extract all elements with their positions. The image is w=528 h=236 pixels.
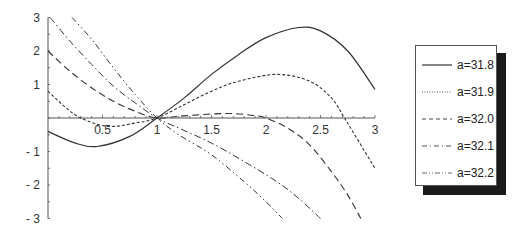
legend-item-a-32-1: a=32.1 — [422, 138, 494, 154]
x-tick-label: 1.5 — [203, 123, 220, 137]
x-tick-label: 1 — [154, 123, 161, 137]
x-tick-label: 2 — [263, 123, 270, 137]
legend-label: a=31.8 — [457, 58, 494, 72]
y-tick-label: - 1 — [26, 145, 40, 159]
y-tick-label: 2 — [33, 44, 40, 58]
legend-swatch-dashed-icon — [422, 114, 452, 124]
legend-label: a=32.2 — [457, 166, 494, 180]
legend-swatch-dash-dot-icon — [422, 141, 452, 151]
y-tick-label: - 3 — [26, 212, 40, 226]
y-tick-label: 3 — [33, 11, 40, 25]
legend-swatch-dotted-icon — [422, 87, 452, 97]
legend-item-a-31-8: a=31.8 — [422, 57, 494, 73]
legend-swatch-solid-icon — [422, 60, 452, 70]
chart-axes: 0.511.522.53321- 1- 2- 3 — [26, 11, 379, 226]
chart-legend: a=31.8 a=31.9 a=32.0 a=32.1 a=32.2 — [415, 45, 497, 186]
legend-item-a-31-9: a=31.9 — [422, 84, 494, 100]
legend-item-a-32-2: a=32.2 — [422, 165, 494, 181]
legend-label: a=31.9 — [457, 85, 494, 99]
legend-item-a-32-0: a=32.0 — [422, 111, 494, 127]
series-a-31-9 — [48, 74, 375, 168]
y-tick-label: 1 — [33, 78, 40, 92]
y-tick-label: - 2 — [26, 178, 40, 192]
legend-label: a=32.1 — [457, 139, 494, 153]
x-tick-label: 2.5 — [312, 123, 329, 137]
legend-swatch-dash-dot-dot-icon — [422, 168, 452, 178]
x-tick-label: 3 — [372, 123, 379, 137]
legend-label: a=32.0 — [457, 112, 494, 126]
